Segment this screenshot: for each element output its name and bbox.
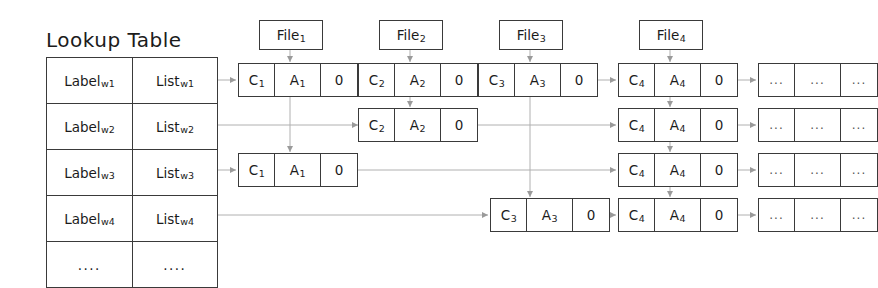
node-cell-c: C4: [619, 154, 655, 186]
lookup-list-cell: Listw2: [133, 104, 218, 149]
lookup-list-cell: Listw3: [133, 150, 218, 195]
node-a-text: A: [670, 72, 679, 88]
node-a-sub: 1: [300, 78, 306, 89]
node-a-sub: 4: [680, 168, 686, 179]
lookup-row[interactable]: Labelw1 Listw1: [47, 58, 217, 104]
node-c-sub: 4: [639, 123, 645, 134]
record-node[interactable]: C4 A4 0: [618, 153, 738, 187]
node-cell-a: A2: [395, 109, 441, 141]
lookup-list-text: List: [156, 211, 180, 227]
record-node[interactable]: C3 A3 0: [478, 63, 598, 97]
lookup-list-cell: Listw1: [133, 58, 218, 103]
file-box-1[interactable]: File1: [259, 20, 323, 50]
lookup-row[interactable]: Labelw3 Listw3: [47, 150, 217, 196]
node-cell-z: 0: [321, 64, 357, 96]
lookup-label-text: Label: [64, 119, 100, 135]
node-a-sub: 1: [300, 168, 306, 179]
node-c-sub: 3: [511, 213, 517, 224]
lookup-row[interactable]: .... ....: [47, 242, 217, 287]
lookup-list-cell: ....: [133, 242, 218, 287]
node-a-text: A: [530, 72, 539, 88]
lookup-list-text: List: [156, 119, 180, 135]
node-a-sub: 4: [680, 78, 686, 89]
node-cell-z: ...: [841, 154, 877, 186]
node-cell-a: A3: [515, 64, 561, 96]
record-node[interactable]: C3 A3 0: [490, 198, 610, 232]
file-sub: 1: [300, 33, 306, 44]
node-cell-a: A1: [275, 154, 321, 186]
file-box-2[interactable]: File2: [379, 20, 443, 50]
node-cell-z: 0: [441, 64, 477, 96]
lookup-row[interactable]: Labelw4 Listw4: [47, 196, 217, 242]
file-label: File: [397, 27, 420, 43]
node-cell-a: A4: [655, 109, 701, 141]
node-c-text: C: [369, 72, 378, 88]
node-cell-a: A4: [655, 199, 701, 231]
node-cell-z: 0: [561, 64, 597, 96]
node-cell-c: ...: [759, 64, 795, 96]
lookup-label-sub: w3: [101, 170, 115, 181]
node-c-sub: 4: [639, 213, 645, 224]
node-cell-c: C1: [239, 154, 275, 186]
lookup-label-sub: w4: [101, 216, 115, 227]
lookup-list-cell: Listw4: [133, 196, 218, 241]
node-cell-a: A3: [527, 199, 573, 231]
node-a-text: A: [670, 117, 679, 133]
file-box-3[interactable]: File3: [499, 20, 563, 50]
lookup-row[interactable]: Labelw2 Listw2: [47, 104, 217, 150]
node-a-sub: 3: [540, 78, 546, 89]
node-a-text: A: [670, 162, 679, 178]
lookup-list-text: List: [156, 165, 180, 181]
node-cell-a: A1: [275, 64, 321, 96]
lookup-table-title: Lookup Table: [46, 28, 182, 52]
record-node[interactable]: C1 A1 0: [238, 153, 358, 187]
node-c-sub: 2: [379, 78, 385, 89]
node-c-text: C: [249, 72, 258, 88]
node-cell-c: C2: [359, 109, 395, 141]
file-sub: 2: [420, 33, 426, 44]
lookup-label-cell: ....: [47, 242, 133, 287]
node-cell-c: C2: [359, 64, 395, 96]
file-label: File: [277, 27, 300, 43]
file-sub: 3: [540, 33, 546, 44]
record-node[interactable]: C4 A4 0: [618, 198, 738, 232]
lookup-table: Labelw1 Listw1 Labelw2 Listw2 Labelw3 Li…: [46, 57, 218, 288]
node-a-text: A: [290, 72, 299, 88]
node-cell-z: 0: [701, 199, 737, 231]
record-node[interactable]: C1 A1 0: [238, 63, 358, 97]
record-node[interactable]: C4 A4 0: [618, 63, 738, 97]
node-c-text: C: [489, 72, 498, 88]
node-cell-c: C3: [479, 64, 515, 96]
lookup-label-text: Label: [64, 211, 100, 227]
node-a-sub: 2: [420, 123, 426, 134]
node-cell-c: C4: [619, 64, 655, 96]
node-a-text: A: [410, 117, 419, 133]
node-a-text: A: [542, 207, 551, 223]
file-label: File: [517, 27, 540, 43]
record-node-ellipsis[interactable]: ... ... ...: [758, 108, 878, 142]
node-cell-z: ...: [841, 109, 877, 141]
lookup-label-cell: Labelw3: [47, 150, 133, 195]
record-node[interactable]: C4 A4 0: [618, 108, 738, 142]
node-cell-z: ...: [841, 199, 877, 231]
lookup-list-sub: w4: [180, 216, 194, 227]
node-cell-c: ...: [759, 154, 795, 186]
record-node-ellipsis[interactable]: ... ... ...: [758, 63, 878, 97]
node-cell-a: ...: [795, 154, 841, 186]
record-node-ellipsis[interactable]: ... ... ...: [758, 198, 878, 232]
record-node-ellipsis[interactable]: ... ... ...: [758, 153, 878, 187]
node-cell-c: ...: [759, 199, 795, 231]
node-c-sub: 2: [379, 123, 385, 134]
node-c-sub: 4: [639, 168, 645, 179]
file-label: File: [657, 27, 680, 43]
record-node[interactable]: C2 A2 0: [358, 63, 478, 97]
lookup-list-sub: w2: [180, 124, 194, 135]
file-box-4[interactable]: File4: [639, 20, 703, 50]
node-c-text: C: [369, 117, 378, 133]
node-c-text: C: [629, 72, 638, 88]
node-cell-c: C4: [619, 109, 655, 141]
record-node[interactable]: C2 A2 0: [358, 108, 478, 142]
lookup-list-sub: w1: [180, 78, 194, 89]
node-cell-z: 0: [701, 64, 737, 96]
